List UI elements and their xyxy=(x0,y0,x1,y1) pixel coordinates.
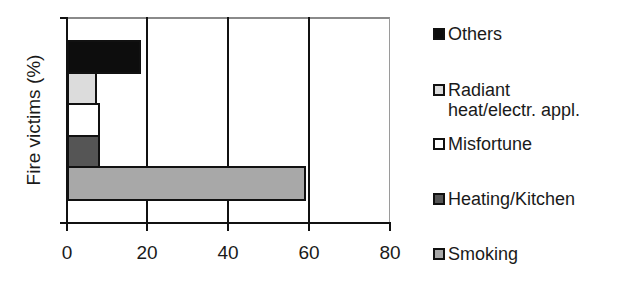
legend-item-heating-kitchen: Heating/Kitchen xyxy=(433,189,575,209)
legend-label: Heating/Kitchen xyxy=(448,189,575,209)
legend-swatch-icon xyxy=(433,84,445,96)
y-tick-top xyxy=(60,17,68,19)
legend-label-line2: heat/electr. appl. xyxy=(448,100,580,120)
x-tick-40 xyxy=(227,222,229,231)
bar-radiant-heat xyxy=(67,72,97,105)
legend-swatch-icon xyxy=(433,248,445,260)
legend-item-radiant-heat: Radiant heat/electr. appl. xyxy=(433,80,580,120)
legend-label: Misfortune xyxy=(448,134,532,154)
legend-item-others: Others xyxy=(433,24,502,44)
x-tick-60 xyxy=(308,222,310,231)
x-tick-label: 80 xyxy=(370,242,410,264)
legend-swatch-icon xyxy=(433,193,445,205)
y-axis xyxy=(66,17,68,230)
legend-swatch-icon xyxy=(433,28,445,40)
y-axis-label: Fire victims (%) xyxy=(23,55,45,186)
legend-item-misfortune: Misfortune xyxy=(433,134,532,154)
bar-misfortune xyxy=(67,103,100,137)
x-axis xyxy=(60,222,391,224)
legend-label: Others xyxy=(448,24,502,44)
legend-swatch-icon xyxy=(433,138,445,150)
bar-others xyxy=(67,40,141,74)
x-tick-20 xyxy=(146,222,148,231)
x-tick-0 xyxy=(66,222,68,231)
bar-heating-kitchen xyxy=(67,135,100,168)
x-tick-label: 60 xyxy=(289,242,329,264)
x-tick-label: 0 xyxy=(47,242,87,264)
x-tick-80 xyxy=(389,222,391,231)
x-tick-label: 20 xyxy=(127,242,167,264)
gridline-60 xyxy=(308,17,310,223)
x-tick-label: 40 xyxy=(208,242,248,264)
legend-label: Radiant xyxy=(448,80,580,100)
legend-item-smoking: Smoking xyxy=(433,244,518,264)
bar-smoking xyxy=(67,166,306,201)
legend-label-block: Radiant heat/electr. appl. xyxy=(448,80,580,120)
legend-label: Smoking xyxy=(448,244,518,264)
